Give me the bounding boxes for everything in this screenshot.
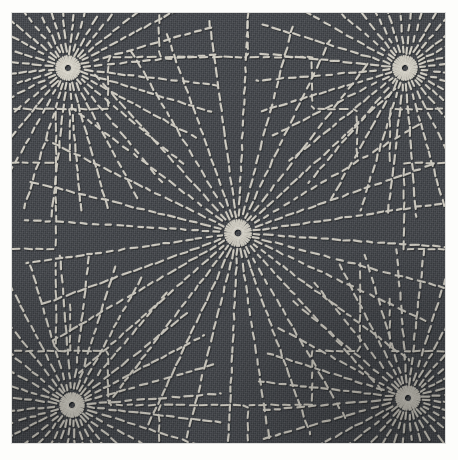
textile-swatch <box>12 13 445 443</box>
photograph <box>0 0 458 460</box>
sashiko-stitching <box>12 13 445 443</box>
stitch-canvas <box>12 13 445 443</box>
